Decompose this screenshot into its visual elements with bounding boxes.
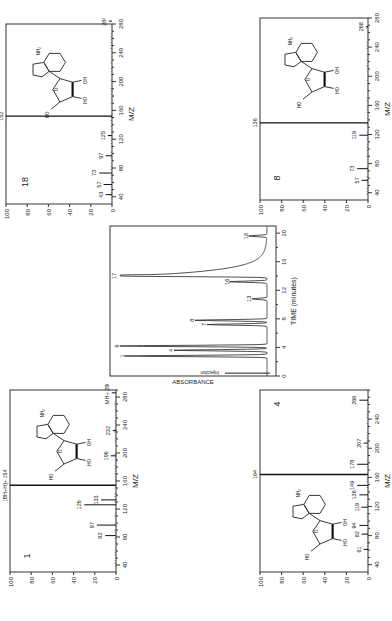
peak-label: 82	[354, 531, 360, 537]
x-tick-label: 40	[118, 193, 124, 200]
chrom-peak-label: 7	[201, 323, 207, 326]
chrom-peak-label: 18	[243, 233, 249, 239]
chrom-x-tick: 0	[281, 374, 287, 378]
svg-text:NH₂: NH₂	[36, 47, 41, 55]
y-tick-label: 40	[71, 576, 77, 583]
panel-label: 18	[20, 177, 30, 187]
chrom-peak-label: 13	[246, 296, 252, 302]
y-tick-label: 80	[279, 576, 285, 583]
peak-label: 196	[103, 451, 109, 460]
y-tick-label: 60	[301, 576, 307, 583]
x-tick-label: 80	[374, 532, 380, 539]
svg-text:NH₂: NH₂	[296, 489, 301, 497]
x-tick-label: 240	[122, 419, 128, 430]
molecule-structure-icon: HOOHOOHNH₂	[293, 489, 348, 560]
chrom-x-tick: 20	[281, 229, 287, 236]
svg-text:O: O	[314, 529, 319, 533]
x-tick-label: 240	[374, 413, 380, 424]
x-tick-label: 160	[374, 100, 380, 111]
peak-label: 164	[252, 470, 258, 479]
x-tick-label: 280	[118, 18, 124, 29]
hplc-chromatogram: 1467813161718Injection048121620TIME (min…	[104, 222, 298, 390]
svg-text:OH: OH	[83, 77, 88, 84]
chrom-x-tick: 8	[281, 317, 287, 321]
svg-text:OH: OH	[87, 439, 92, 446]
peak-label: 57	[354, 177, 360, 183]
chrom-peak-label: 4	[168, 349, 174, 352]
svg-text:HO: HO	[87, 459, 92, 466]
peak-label: 126	[76, 500, 82, 509]
peak-label: 136	[351, 490, 357, 499]
y-tick-label: 20	[88, 208, 94, 215]
x-tick-label: 120	[122, 503, 128, 514]
svg-text:OH: OH	[335, 67, 340, 74]
peak-label: 268	[358, 22, 364, 31]
y-tick-label: 40	[322, 576, 328, 583]
y-tick-label: 100	[8, 576, 14, 587]
peak-label: 73	[91, 170, 97, 176]
peak-label: [BH+H]+ 154	[2, 469, 8, 501]
y-tick-label: 0	[114, 576, 120, 580]
y-tick-label: 20	[344, 576, 350, 583]
x-tick-label: 80	[122, 533, 128, 540]
peak-label: 152	[0, 112, 4, 121]
svg-text:NH₂: NH₂	[288, 37, 293, 45]
x-tick-label: 80	[118, 164, 124, 171]
svg-text:HO: HO	[335, 87, 340, 94]
panel-label: 4	[272, 401, 282, 406]
peak-label: 136	[252, 118, 258, 127]
x-tick-label: 200	[118, 76, 124, 87]
mass-spectrum-panel-1: 0204060801004080120160200240280M/Z182971…	[0, 384, 140, 594]
x-tick-label: 40	[374, 561, 380, 568]
peak-label: 133	[93, 495, 99, 504]
chrom-x-axis-label: TIME (minutes)	[290, 277, 298, 325]
y-tick-label: 0	[366, 204, 372, 208]
molecule-structure-icon: HOOHOOHNH₂	[285, 37, 340, 108]
mass-spectrum-panel-4: 0204060801004080120160200240M/Z461829411…	[250, 384, 392, 594]
y-tick-label: 80	[25, 208, 31, 215]
x-tick-label: 200	[374, 443, 380, 454]
spectrum-svg-4: 0204060801004080120160200240M/Z461829411…	[250, 384, 392, 594]
panel-label: 1	[22, 553, 32, 558]
mass-spectrum-panel-18: 0204060801004080120160200240280M/Z184357…	[0, 18, 140, 222]
peak-label: 57	[96, 181, 102, 187]
peak-label: 97	[98, 153, 104, 159]
x-tick-label: 40	[122, 561, 128, 568]
peak-label: 178	[349, 460, 355, 469]
peak-label: 125	[100, 131, 106, 140]
mass-spectrum-panel-8: 0204060801004080120160200240280M/Z857731…	[250, 12, 392, 222]
chrom-peak-label: 6	[114, 344, 120, 347]
chromatogram-trace	[120, 226, 267, 376]
x-tick-label: 200	[122, 447, 128, 458]
x-axis-label: M/Z	[383, 474, 392, 488]
chromatogram-svg: 1467813161718Injection048121620TIME (min…	[104, 222, 298, 390]
svg-text:O: O	[58, 449, 63, 453]
svg-text:HO: HO	[49, 473, 54, 480]
x-tick-label: 280	[374, 12, 380, 23]
spectrum-svg-8: 0204060801004080120160200240280M/Z857731…	[250, 12, 392, 222]
chrom-peak-label: 8	[189, 319, 195, 322]
chrom-peak-label: 17	[111, 273, 117, 279]
y-tick-label: 80	[29, 576, 35, 583]
x-tick-label: 120	[374, 501, 380, 512]
x-tick-label: 240	[374, 41, 380, 52]
svg-text:O: O	[54, 87, 59, 91]
peak-label: 94	[351, 522, 357, 528]
y-tick-label: 0	[366, 576, 372, 580]
y-tick-label: 60	[301, 204, 307, 211]
peak-label: 284	[101, 18, 107, 26]
y-tick-label: 60	[50, 576, 56, 583]
svg-text:HO: HO	[305, 553, 310, 560]
x-tick-label: 120	[374, 129, 380, 140]
peak-label: 207	[356, 439, 362, 448]
x-axis-label: M/Z	[127, 107, 136, 121]
y-tick-label: 100	[258, 204, 264, 215]
spectrum-svg-18: 0204060801004080120160200240280M/Z184357…	[0, 18, 140, 222]
peak-label: 119	[354, 503, 360, 512]
x-tick-label: 40	[374, 189, 380, 196]
y-tick-label: 60	[46, 208, 52, 215]
x-tick-label: 240	[118, 47, 124, 58]
peak-label: 61	[356, 546, 362, 552]
x-axis-label: M/Z	[131, 474, 140, 488]
svg-text:O: O	[306, 77, 311, 81]
